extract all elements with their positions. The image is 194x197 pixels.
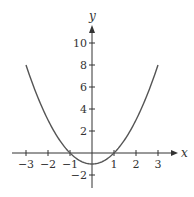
x-tick-label: 3 bbox=[155, 158, 162, 171]
x-tick-label: −3 bbox=[18, 158, 34, 171]
y-tick-label: 8 bbox=[80, 59, 87, 72]
y-tick-label: 6 bbox=[80, 81, 87, 94]
y-axis-arrow-icon bbox=[89, 25, 95, 33]
y-tick-label: −2 bbox=[71, 169, 87, 182]
x-axis-label: x bbox=[181, 146, 188, 160]
y-tick-label: 2 bbox=[80, 125, 87, 138]
y-tick-label: 10 bbox=[73, 37, 87, 50]
y-axis-label: y bbox=[88, 9, 96, 23]
y-tick-label: 4 bbox=[80, 103, 87, 116]
x-axis-arrow-icon bbox=[171, 150, 178, 156]
x-tick-label: 1 bbox=[111, 158, 118, 171]
x-tick-label: 2 bbox=[133, 158, 140, 171]
ticks: −3−2−1123−2246810 bbox=[18, 37, 162, 182]
function-plot: −3−2−1123−2246810 x y bbox=[0, 0, 194, 197]
x-tick-label: −2 bbox=[40, 158, 56, 171]
